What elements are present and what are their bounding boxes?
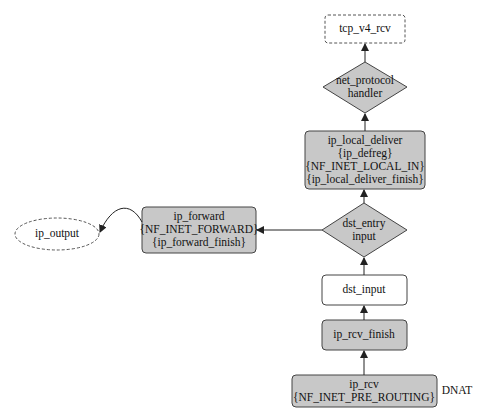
label-ip-local-deliver: ip_local_deliver {ip_defreg} {NF_INET_LO… <box>305 134 425 186</box>
annotation-dnat: DNAT <box>442 384 473 397</box>
label-ip-rcv-finish: ip_rcv_finish <box>333 328 394 341</box>
label-line: {ip_defreg} <box>305 147 425 160</box>
label-dst-entry: dst_entry input <box>343 217 386 243</box>
label-line: ip_rcv <box>293 378 435 391</box>
label-ip-rcv: ip_rcv {NF_INET_PRE_ROUTING} <box>293 378 435 404</box>
label-tcp-v4-rcv: tcp_v4_rcv <box>339 22 391 35</box>
label-net-protocol: net_protocol handler <box>336 74 394 100</box>
label-line: ip_forward <box>139 210 258 223</box>
label-line: {NF_INET_FORWARD} <box>139 223 258 236</box>
edge-ip-forward-to-ip-output <box>100 208 142 232</box>
label-line: input <box>343 230 386 243</box>
label-line: {ip_local_deliver_finish} <box>305 173 425 186</box>
label-line: net_protocol <box>336 74 394 87</box>
label-ip-forward: ip_forward {NF_INET_FORWARD} {ip_forward… <box>139 210 258 249</box>
label-line: {ip_forward_finish} <box>139 236 258 249</box>
label-line: ip_local_deliver <box>305 134 425 147</box>
label-ip-output: ip_output <box>35 227 79 240</box>
label-line: dst_entry <box>343 217 386 230</box>
label-dst-input: dst_input <box>343 283 386 296</box>
label-line: {NF_INET_PRE_ROUTING} <box>293 391 435 404</box>
label-line: handler <box>336 87 394 100</box>
label-line: {NF_INET_LOCAL_IN} <box>305 160 425 173</box>
